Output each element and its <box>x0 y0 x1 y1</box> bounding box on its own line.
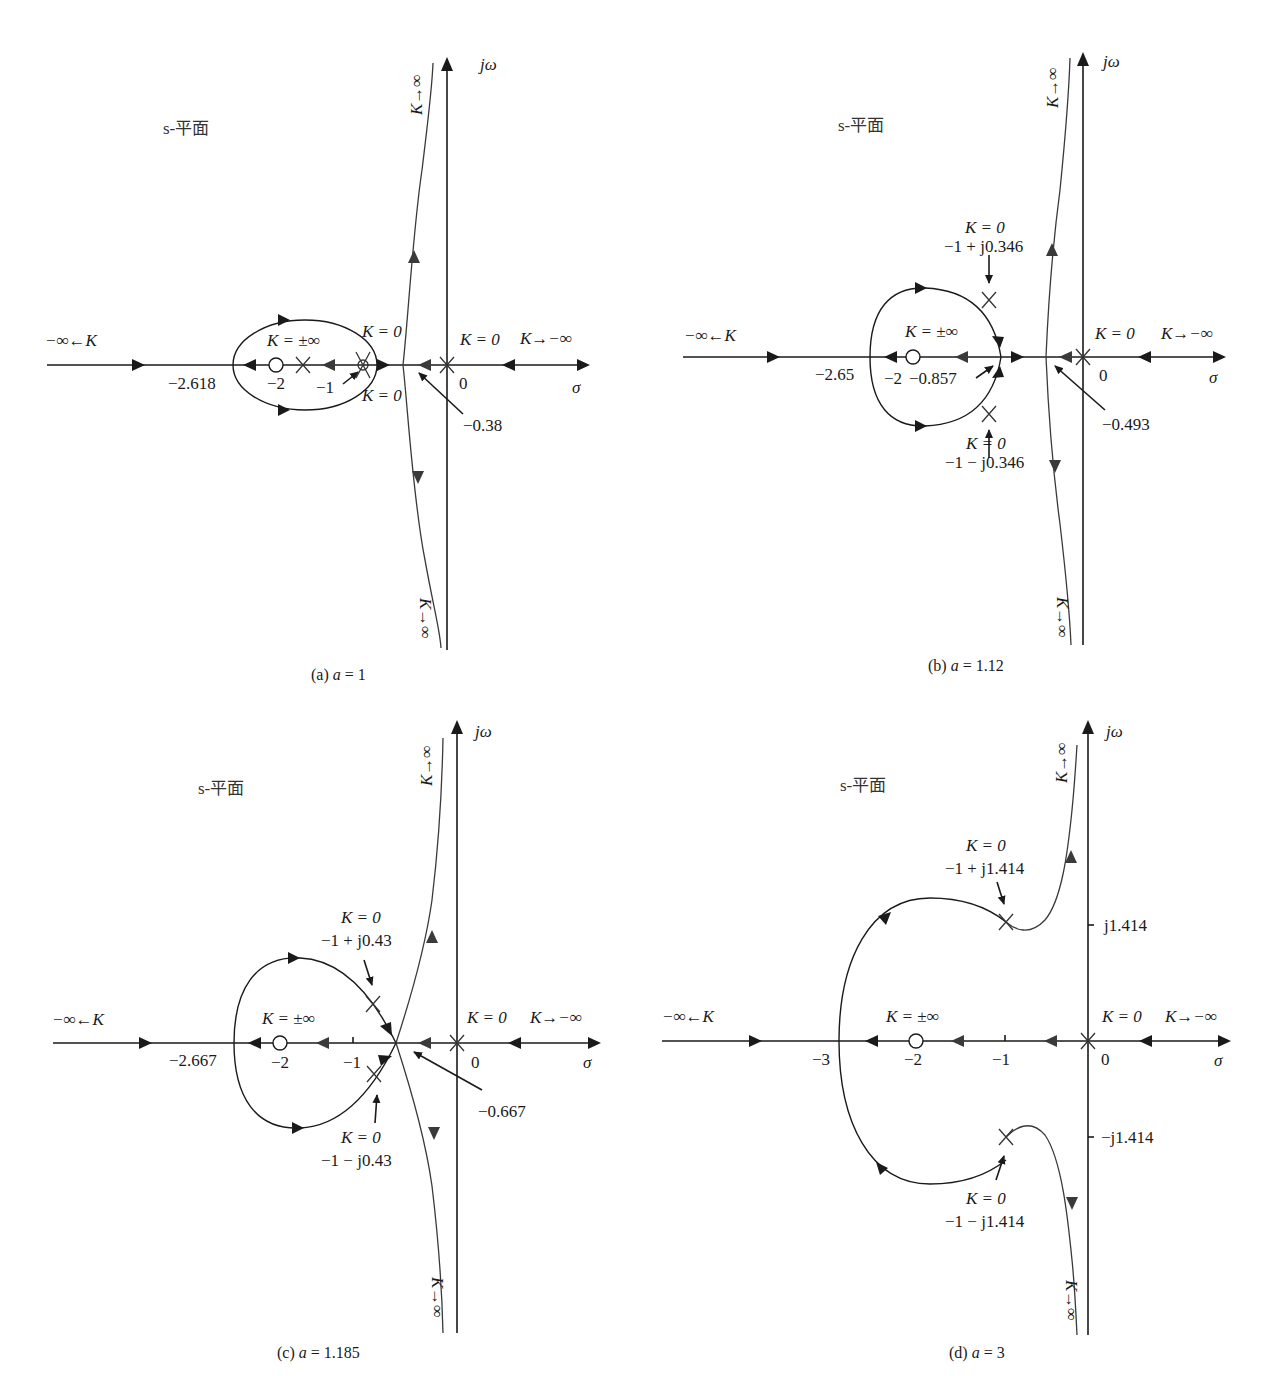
origin-label: 0 <box>459 374 468 393</box>
k0-lower-label: K = 0 <box>965 434 1006 453</box>
upper-pole-label: −1 + j0.43 <box>321 931 392 950</box>
k0-upper-label: K = 0 <box>965 836 1006 855</box>
bottom-asymptote-label: K→∞ <box>428 1276 447 1317</box>
right-inf-label: K→−∞ <box>519 329 572 348</box>
k0-top-label: K = 0 <box>361 322 402 341</box>
k0-lower-label: K = 0 <box>965 1189 1006 1208</box>
k0-origin-label: K = 0 <box>1094 324 1135 343</box>
panel-c: s-平面 jω σ −∞←K K→−∞ K→∞ K→∞ K = ±∞ K = 0… <box>52 720 601 1362</box>
panel-caption: (a) a = 1 <box>311 666 366 684</box>
real-axis-locus-arrow-icon <box>1059 351 1072 363</box>
k-pm-inf-label: K = ±∞ <box>885 1007 939 1026</box>
lower-pole-label: −1 − j1.414 <box>945 1212 1025 1231</box>
real-axis-label: σ <box>1214 1051 1223 1070</box>
pole-marker <box>982 406 996 422</box>
real-axis-locus-arrow-icon <box>377 359 390 371</box>
imag-axis-arrow-icon <box>1077 52 1089 66</box>
real-axis-locus-arrow-icon <box>955 351 968 363</box>
real-axis-locus-arrow-icon <box>884 351 897 363</box>
zero-value-label: −2 <box>271 1053 289 1072</box>
panel-d: s-平面 jω σ −∞←K K→−∞ K→∞ K→∞ K = ±∞ K = 0… <box>662 720 1231 1362</box>
real-axis-arrow-icon <box>1218 1035 1231 1047</box>
real-axis-locus-arrow-icon <box>418 1037 431 1049</box>
k0-origin-label: K = 0 <box>1101 1007 1142 1026</box>
left-inf-label: −∞←K <box>684 326 738 345</box>
imag-tick-neg-label: −j1.414 <box>1101 1128 1154 1147</box>
k-pm-inf-label: K = ±∞ <box>261 1009 315 1028</box>
zero-marker <box>269 358 283 372</box>
branch-arrow-icon <box>1066 1197 1078 1210</box>
upper-pole-label: −1 + j1.414 <box>945 859 1025 878</box>
breakaway-label: −2.65 <box>815 365 854 384</box>
loop-arrow-icon <box>992 366 1004 378</box>
crossing-label: −0.667 <box>478 1102 526 1121</box>
origin-label: 0 <box>1101 1050 1110 1069</box>
real-axis-arrow-icon <box>577 359 590 371</box>
real-axis-locus-arrow-icon <box>1138 351 1151 363</box>
zero-marker <box>909 1034 923 1048</box>
plane-label: s-平面 <box>163 119 209 138</box>
plane-label: s-平面 <box>838 116 884 135</box>
real-axis-locus-arrow-icon <box>1139 1035 1152 1047</box>
crossing-label: −0.38 <box>463 416 502 435</box>
pole-marker <box>999 1129 1013 1145</box>
k-pm-inf-label: K = ±∞ <box>266 331 320 350</box>
right-inf-label: K→−∞ <box>529 1008 582 1027</box>
right-inf-label: K→−∞ <box>1164 1007 1217 1026</box>
real-axis-locus-arrow-icon <box>418 359 431 371</box>
pointer-arrow-icon <box>1055 366 1105 410</box>
branch-arrow-icon <box>1046 243 1058 256</box>
k0-origin-label: K = 0 <box>466 1008 507 1027</box>
imag-tick-pos-label: j1.414 <box>1103 916 1147 935</box>
branch-arrow-icon <box>408 250 420 263</box>
lower-pole-label: −1 − j0.43 <box>321 1151 392 1170</box>
real-axis-label: σ <box>572 378 581 397</box>
real-axis-locus-arrow-icon <box>132 359 145 371</box>
pointer-arrow-icon <box>375 1095 377 1123</box>
real-axis-locus-arrow-icon <box>767 351 780 363</box>
breakaway-label: −2.667 <box>169 1051 217 1070</box>
k0-upper-label: K = 0 <box>964 218 1005 237</box>
real-axis-locus-arrow-icon <box>1044 1035 1057 1047</box>
imag-axis-label: jω <box>1104 722 1123 741</box>
pole-marker <box>999 914 1013 930</box>
panel-caption: (c) a = 1.185 <box>277 1344 360 1362</box>
loop-arrow-icon <box>876 1162 888 1175</box>
panel-caption: (d) a = 3 <box>949 1344 1005 1362</box>
zero-marker <box>273 1036 287 1050</box>
pointer-arrow-icon <box>419 373 463 414</box>
origin-label: 0 <box>471 1053 480 1072</box>
right-inf-label: K→−∞ <box>1160 324 1213 343</box>
left-inf-label: −∞←K <box>45 331 99 350</box>
zero-value-label: −2 <box>267 374 285 393</box>
panel-b: s-平面 jω σ −∞←K K→−∞ K→∞ K→∞ K = ±∞ K = 0… <box>683 52 1226 675</box>
imag-axis-label: jω <box>478 55 497 74</box>
real-axis-arrow-icon <box>588 1037 601 1049</box>
k-pm-inf-label: K = ±∞ <box>904 322 958 341</box>
minus-one-label: −1 <box>343 1053 361 1072</box>
branch-arrow-icon <box>426 930 438 943</box>
pole-marker <box>982 292 996 308</box>
k0-bottom-label: K = 0 <box>361 386 402 405</box>
pole-marker <box>366 996 380 1012</box>
real-axis-label: σ <box>583 1053 592 1072</box>
loop-arrow-icon <box>380 1022 392 1036</box>
real-axis-locus-arrow-icon <box>951 1035 964 1047</box>
loop-arrow-icon <box>288 952 300 964</box>
k0-lower-label: K = 0 <box>340 1128 381 1147</box>
branch-arrow-icon <box>1049 460 1061 473</box>
real-axis-locus-arrow-icon <box>502 359 515 371</box>
imag-axis-label: jω <box>1101 52 1120 71</box>
pointer-arrow-icon <box>343 372 358 384</box>
double-pole-label: −1 <box>316 378 334 397</box>
breakaway-label: −2.618 <box>168 374 216 393</box>
imag-axis-arrow-icon <box>441 57 453 71</box>
zero-marker <box>906 350 920 364</box>
loop-arrow-icon <box>292 1122 304 1134</box>
imag-axis-label: jω <box>473 722 492 741</box>
loop-arrow-icon <box>878 912 891 925</box>
loop-arrow-icon <box>915 420 927 432</box>
real-axis-locus-arrow-icon <box>865 1035 878 1047</box>
crossing-label: −0.493 <box>1102 415 1150 434</box>
bottom-asymptote-label: K→∞ <box>1062 1279 1081 1320</box>
